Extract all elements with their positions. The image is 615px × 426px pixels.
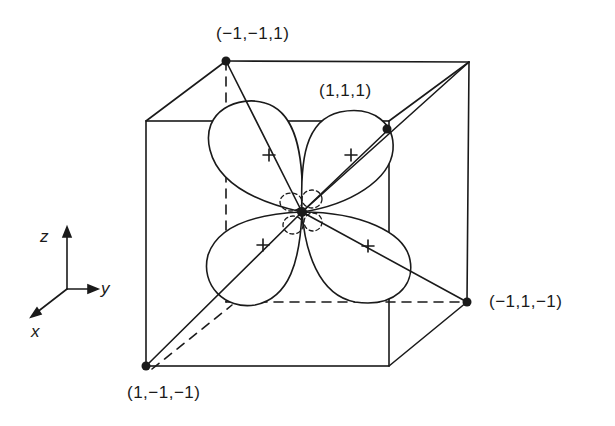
lobe-lower-right [302, 212, 411, 303]
axis-x [36, 289, 67, 313]
lobe-upper-right [302, 111, 394, 212]
cube-hidden-edge-diagonal [152, 305, 232, 369]
vertex-dot-1-1-1 [383, 125, 392, 134]
cube-back-top-edge [226, 61, 469, 62]
cube-edge-top-left [146, 61, 226, 121]
cube-back-right-edge [467, 62, 469, 302]
axis-label-x: x [31, 322, 40, 342]
arrow-y-icon [88, 285, 98, 293]
axis-label-z: z [40, 227, 49, 247]
vertex-dot-1-neg1-neg1 [142, 362, 151, 371]
center-nucleus [297, 207, 307, 217]
lobe-upper-left [208, 101, 302, 212]
label-1-neg1-neg1: (1,−1,−1) [127, 383, 201, 403]
orbital-cube-diagram [0, 0, 615, 426]
arrow-z-icon [63, 227, 71, 237]
vertex-dot-neg1-neg1-1 [222, 57, 231, 66]
cube-edge-top-right [389, 62, 469, 121]
label-1-1-1: (1,1,1) [319, 81, 372, 101]
axis-label-y: y [101, 279, 110, 299]
label-neg1-1-neg1: (−1,1,−1) [489, 292, 563, 312]
cube-edge-bottom-right [389, 302, 467, 366]
label-neg1-neg1-1: (−1,−1,1) [216, 24, 290, 44]
vertex-dot-neg1-1-neg1 [463, 298, 472, 307]
